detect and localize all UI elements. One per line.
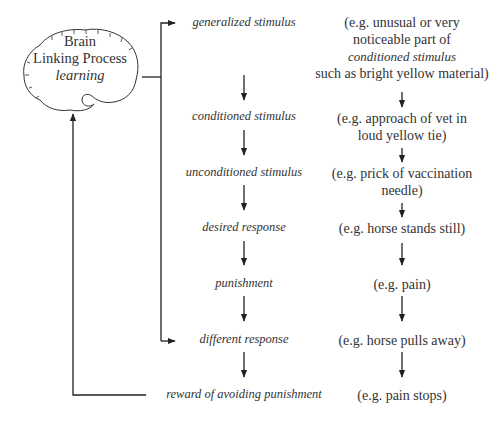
example-conditioned-stimulus: (e.g. approach of vet in loud yellow tie… (297, 110, 502, 144)
example-generalized-stimulus: (e.g. unusual or very noticeable part of… (297, 14, 502, 82)
brain-label: Brain Linking Process learning (20, 33, 140, 84)
example-punishment: (e.g. pain) (297, 276, 502, 293)
brain-learning: learning (20, 67, 140, 84)
example-desired-response: (e.g. horse stands still) (297, 220, 502, 237)
example-reward: (e.g. pain stops) (297, 387, 502, 404)
brain-title: Brain (20, 33, 140, 50)
example-different-response: (e.g. horse pulls away) (297, 332, 502, 349)
brain-subtitle: Linking Process (20, 50, 140, 67)
example-unconditioned-stimulus: (e.g. prick of vaccination needle) (297, 165, 502, 199)
diagram-canvas: Brain Linking Process learning generaliz… (0, 0, 502, 421)
